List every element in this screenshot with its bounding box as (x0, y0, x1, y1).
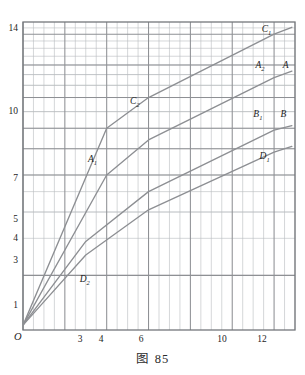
curve-label-B1: B1 (253, 109, 262, 121)
curve-label-A1: A1 (88, 154, 97, 166)
x-tick-4: 4 (91, 334, 111, 344)
curve-label-D1: D1 (260, 151, 270, 163)
y-tick-1: 1 (0, 300, 18, 310)
y-tick-14: 14 (0, 23, 18, 33)
y-tick-7: 7 (0, 173, 18, 183)
y-tick-3: 3 (0, 255, 18, 265)
x-tick-3: 3 (70, 334, 90, 344)
y-tick-10: 10 (0, 106, 18, 116)
curve-label-D2: D2 (80, 274, 90, 286)
curve-label-A2: A2 (255, 60, 264, 72)
figure-caption: 图85 (0, 348, 305, 367)
curve-label-C2: C2 (130, 96, 140, 108)
curve-label-C1: C1 (262, 24, 272, 36)
series-line-D (23, 146, 292, 325)
caption-label: 图 (136, 351, 150, 366)
x-tick-6: 6 (131, 334, 151, 344)
curve-label-B: B (281, 109, 287, 119)
y-tick-4: 4 (0, 233, 18, 243)
x-tick-10: 10 (212, 334, 232, 344)
series-lines (23, 27, 292, 325)
chart-plot-area (0, 0, 305, 375)
x-tick-12: 12 (252, 334, 272, 344)
curve-label-A: A (283, 60, 289, 70)
origin-label: O (14, 331, 22, 342)
series-line-A (23, 71, 292, 325)
figure-container: 14 10 7 5 4 3 1 3 4 6 10 12 O C2C1A1A2AB… (0, 0, 305, 375)
caption-number: 85 (155, 352, 170, 366)
y-tick-5: 5 (0, 214, 18, 224)
series-line-B (23, 126, 292, 326)
